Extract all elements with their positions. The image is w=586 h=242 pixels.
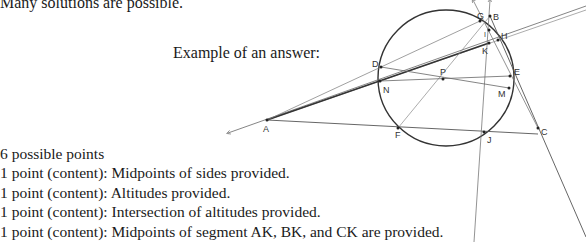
label-j: J <box>487 135 492 145</box>
label-b: B <box>493 12 499 22</box>
point-markers <box>266 15 540 134</box>
segment-ak <box>267 43 489 120</box>
label-f: F <box>395 130 401 140</box>
scoring-item: 1 point (content): Intersection of altit… <box>0 202 443 221</box>
scoring-item: 1 point (content): Midpoints of segment … <box>0 222 443 241</box>
label-e: E <box>514 67 520 77</box>
scoring-item: 1 point (content): Midpoints of sides pr… <box>0 163 443 182</box>
label-a: A <box>263 124 269 134</box>
label-d: D <box>372 59 379 69</box>
label-k: K <box>482 46 488 56</box>
scoring-item: 1 point (content): Altitudes provided. <box>0 183 443 202</box>
scoring-total: 6 possible points <box>0 144 443 163</box>
label-i: I <box>484 31 486 38</box>
scoring-rubric: 6 possible points 1 point (content): Mid… <box>0 144 443 241</box>
label-n: N <box>383 85 390 95</box>
segment-ag <box>267 21 480 120</box>
label-g: G <box>477 11 484 21</box>
label-h: H <box>501 31 508 41</box>
altitude-b <box>474 0 490 242</box>
label-m: M <box>498 89 506 99</box>
label-c: C <box>541 127 548 137</box>
label-p: P <box>440 67 446 77</box>
